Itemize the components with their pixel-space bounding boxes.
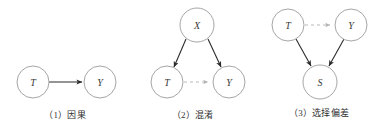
node-p3-y: Y <box>335 9 367 41</box>
caption-panel-causation: （1）因果 <box>0 108 130 121</box>
node-p3-t: T <box>272 9 304 41</box>
node-p1-y: Y <box>84 66 116 98</box>
node-p3-s: S <box>303 65 337 99</box>
panel-confounding-graph: X T Y <box>151 8 245 98</box>
edge-p3-y-to-s <box>329 39 344 66</box>
node-p2-x: X <box>180 8 214 42</box>
caption-panel-confounding: （2）混淆 <box>130 108 255 121</box>
panel-causation-graph: T Y <box>17 66 116 98</box>
node-p1-t: T <box>17 66 49 98</box>
panel-selection-bias-graph: T Y S <box>272 9 367 99</box>
edge-p2-x-to-y <box>208 39 221 67</box>
node-p2-t: T <box>151 66 183 98</box>
causal-diagram-figure: T Y X T Y <box>0 0 383 133</box>
caption-panel-selection-bias: （3）选择偏差 <box>255 106 383 119</box>
node-p2-y: Y <box>213 66 245 98</box>
edge-p3-t-to-s <box>296 39 311 66</box>
node-label: X <box>193 20 201 31</box>
node-label: S <box>318 77 323 88</box>
edge-p2-x-to-t <box>174 39 186 67</box>
